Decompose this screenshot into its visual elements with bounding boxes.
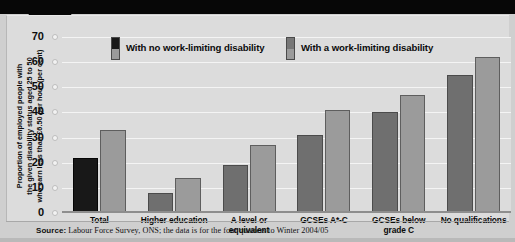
source-text: Labour Force Survey, ONS; the data is fo… [66,226,328,235]
y-axis-tick-label: 30 [10,132,44,143]
source-divider [6,221,509,222]
chart-plate: Proportion of employed people with the g… [6,15,509,221]
bar-1-5 [372,112,398,213]
decorative-bottom-edge [0,238,515,242]
y-axis-tick-label: 20 [10,157,44,168]
legend-swatch-top [287,38,294,49]
bar-1-6 [447,75,473,213]
y-axis-tick-label: 40 [10,106,44,117]
x-axis-baseline [62,211,511,213]
y-axis-tick-label: 70 [10,31,44,42]
chart-legend: With no work-limiting disabilityWith a w… [111,36,501,62]
x-axis-label-6: No qualifications [436,215,511,225]
bar-2-3 [250,145,276,213]
bar-1-4 [297,135,323,213]
x-axis-label-4: GCSEs A*-C [287,215,362,225]
y-axis-tick-label: 10 [10,182,44,193]
bar-2-4 [325,110,351,213]
bar-2-6 [475,57,501,213]
x-axis-label-2: Higher education [137,215,212,225]
y-axis-tick [52,185,58,191]
y-axis-tick [52,210,58,216]
legend-label: With no work-limiting disability [126,42,265,53]
bar-1-1 [73,158,99,213]
legend-label: With a work-limiting disability [301,42,433,53]
y-axis-tick-label: 50 [10,81,44,92]
y-axis-tick [52,34,58,40]
x-axis-label-1: Total [62,215,137,225]
legend-swatch-top [112,38,119,49]
source-note: Source: Labour Force Survey, ONS; the da… [36,226,328,235]
bar-1-3 [223,165,249,213]
decorative-top-band [0,0,515,14]
chart-figure: Proportion of employed people with the g… [0,0,515,242]
source-label: Source: [36,226,66,235]
x-axis-label-5: GCSEs below grade C [361,215,436,235]
bar-2-5 [400,95,426,213]
bar-2-1 [100,130,126,213]
y-axis-tick-label: 60 [10,56,44,67]
legend-swatch-icon [286,37,295,60]
bar-1-2 [148,193,174,213]
bar-2-2 [175,178,201,213]
y-axis-tick-label: 0 [10,207,44,218]
plot-area [62,37,511,213]
legend-swatch-bottom [287,49,294,59]
bars-layer [62,37,511,213]
y-axis-tick [52,135,58,141]
legend-swatch-bottom [112,49,119,59]
legend-swatch-icon [111,37,120,60]
y-axis-tick [52,160,58,166]
